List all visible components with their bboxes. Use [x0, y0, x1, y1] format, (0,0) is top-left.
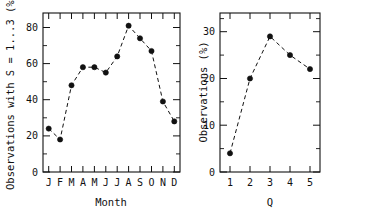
data-point-dec	[172, 119, 177, 124]
monthly-data-line	[49, 26, 175, 140]
x-tick-label-may: M	[91, 177, 97, 188]
x-axis-title: Q	[267, 196, 273, 208]
x-tick-label-nov: N	[160, 177, 166, 188]
chart-panel-monthly: 0 20 40 60 80 J F M A M J J A S O N D Mo…	[0, 0, 195, 221]
plot-frame	[43, 13, 180, 172]
x-axis-ticks	[49, 13, 175, 172]
data-point-q4	[287, 53, 292, 58]
quality-chart-svg: 0 10 20 30 1 2 3 4 5 Q Observations (%)	[195, 0, 376, 221]
y-axis-major-ticks	[43, 28, 180, 173]
x-tick-label-jan: J	[46, 177, 52, 188]
y-tick-label-80: 80	[26, 22, 38, 33]
y-axis-title: Observations (%)	[197, 41, 209, 142]
data-point-mar	[69, 83, 74, 88]
y-tick-label-30: 30	[203, 26, 215, 37]
x-tick-label-apr: A	[80, 177, 86, 188]
x-tick-label-q5: 5	[307, 177, 313, 188]
data-point-nov	[160, 99, 165, 104]
y-tick-label-60: 60	[26, 58, 38, 69]
x-tick-label-sep: S	[137, 177, 143, 188]
data-point-q3	[267, 34, 272, 39]
quality-data-markers	[227, 34, 312, 156]
data-point-q2	[247, 76, 252, 81]
data-point-q5	[307, 67, 312, 72]
data-point-jun	[103, 70, 108, 75]
data-point-may	[92, 65, 97, 70]
x-tick-label-aug: A	[126, 177, 132, 188]
data-point-sep	[137, 36, 142, 41]
quality-data-line	[230, 36, 310, 153]
x-tick-label-mar: M	[68, 177, 74, 188]
data-point-apr	[80, 65, 85, 70]
figure-canvas: 0 20 40 60 80 J F M A M J J A S O N D Mo…	[0, 0, 376, 221]
y-tick-label-0: 0	[209, 167, 215, 178]
x-tick-label-feb: F	[57, 177, 63, 188]
x-axis-title: Month	[95, 196, 127, 208]
x-tick-label-jul: J	[114, 177, 120, 188]
y-tick-label-0: 0	[32, 167, 38, 178]
data-point-aug	[126, 23, 131, 28]
monthly-data-markers	[46, 23, 177, 142]
chart-panel-quality: 0 10 20 30 1 2 3 4 5 Q Observations (%)	[195, 0, 376, 221]
y-axis-major-ticks	[220, 32, 320, 172]
x-tick-label-oct: O	[148, 177, 154, 188]
monthly-chart-svg: 0 20 40 60 80 J F M A M J J A S O N D Mo…	[0, 0, 195, 221]
x-tick-label-q4: 4	[287, 177, 293, 188]
data-point-jan	[46, 126, 51, 131]
x-tick-label-jun: J	[103, 177, 109, 188]
x-tick-label-dec: D	[171, 177, 177, 188]
x-tick-label-q2: 2	[247, 177, 253, 188]
y-axis-minor-ticks	[43, 46, 180, 154]
data-point-feb	[58, 137, 63, 142]
x-tick-label-q3: 3	[267, 177, 273, 188]
data-point-q1	[227, 151, 232, 156]
y-tick-label-20: 20	[26, 130, 38, 141]
y-axis-title: Observations with S = 1...3 (%)	[4, 0, 16, 190]
data-point-oct	[149, 48, 154, 53]
data-point-jul	[115, 54, 120, 59]
y-tick-label-40: 40	[26, 94, 38, 105]
x-tick-label-q1: 1	[227, 177, 233, 188]
